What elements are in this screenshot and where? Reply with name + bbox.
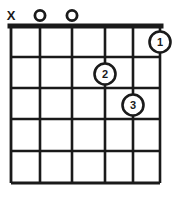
- chord-diagram-canvas: X 1 2 3: [0, 0, 181, 198]
- finger-dot-1-label: 1: [157, 36, 163, 48]
- finger-dot-3: 3: [123, 95, 144, 116]
- top-markers: X: [7, 8, 77, 23]
- chord-diagram: X 1 2 3: [0, 0, 181, 198]
- finger-dot-2: 2: [95, 64, 116, 85]
- finger-dot-3-label: 3: [130, 99, 136, 111]
- mute-marker-string-1: X: [7, 8, 16, 23]
- fret-lines: [11, 57, 160, 183]
- finger-dot-2-label: 2: [102, 68, 108, 80]
- open-marker-string-3: [67, 10, 77, 20]
- open-marker-string-2: [35, 10, 45, 20]
- finger-dot-1: 1: [150, 32, 171, 53]
